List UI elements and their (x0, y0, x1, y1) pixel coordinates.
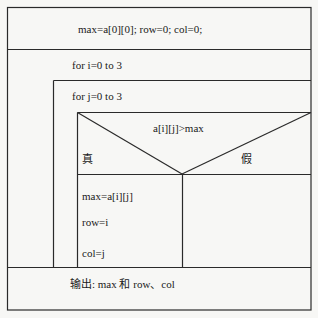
assign-col: col=j (82, 247, 105, 259)
inner-loop-label: for j=0 to 3 (72, 90, 122, 102)
init-statement: max=a[0][0]; row=0; col=0; (78, 23, 202, 35)
outer-loop-label: for i=0 to 3 (72, 59, 122, 71)
assign-max: max=a[i][j] (82, 190, 133, 202)
true-label: 真 (82, 153, 93, 165)
condition-label: a[i][j]>max (153, 122, 204, 134)
flowchart-lines (0, 0, 318, 318)
false-label: 假 (241, 153, 252, 165)
assign-row: row=i (82, 216, 108, 228)
output-statement: 输出: max 和 row、col (70, 278, 175, 290)
